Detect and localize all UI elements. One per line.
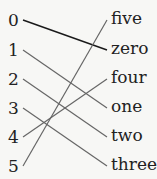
- left-label-4: 4: [8, 127, 19, 147]
- left-label-5: 5: [8, 156, 19, 176]
- right-label-two: two: [111, 125, 143, 145]
- left-label-0: 0: [8, 10, 19, 30]
- left-label-2: 2: [8, 69, 19, 89]
- left-label-3: 3: [8, 98, 19, 118]
- connection-5-five: [23, 20, 107, 166]
- right-label-one: one: [111, 96, 142, 116]
- connection-0-zero: [23, 20, 107, 50]
- right-label-five: five: [111, 8, 142, 28]
- right-label-four: four: [111, 67, 147, 87]
- connection-3-three: [23, 108, 107, 166]
- matching-diagram: 0 1 2 3 4 5 five zero four one two three: [0, 0, 157, 179]
- left-label-1: 1: [8, 40, 19, 60]
- right-label-three: three: [111, 154, 157, 174]
- right-label-zero: zero: [111, 38, 148, 58]
- connection-1-one: [23, 50, 107, 108]
